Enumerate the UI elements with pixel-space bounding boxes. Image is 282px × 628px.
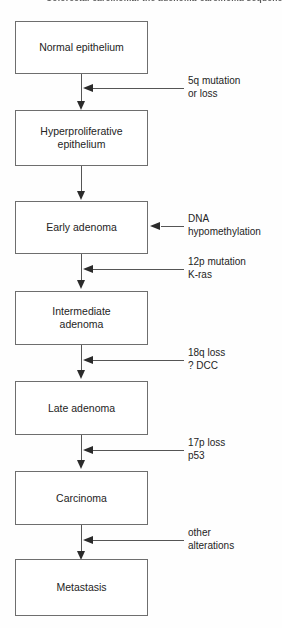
stage-box-hyperproliferative-epithelium: Hyperproliferative epithelium	[15, 110, 148, 166]
stage-line-1: Intermediate	[52, 305, 110, 317]
annotation-line-1: 18q loss	[188, 347, 225, 358]
stage-line-2: adenoma	[60, 318, 104, 330]
cropped-header-text: Colorectal carcinoma: the adenoma-carcin…	[0, 0, 282, 9]
connector-1	[81, 74, 82, 103]
annotation-18q-loss-dcc: 18q loss ? DCC	[188, 347, 225, 372]
annotation-line-5q	[86, 88, 184, 89]
stage-box-normal-epithelium: Normal epithelium	[15, 21, 148, 74]
stage-label-hyperproliferative-epithelium: Hyperproliferative epithelium	[36, 125, 126, 151]
stage-box-intermediate-adenoma: Intermediate adenoma	[15, 291, 148, 345]
annotation-line-1: other	[188, 527, 211, 538]
arrowhead-down-3	[77, 280, 85, 289]
annotation-line-2: hypomethylation	[188, 226, 261, 239]
arrowhead-left-other	[83, 536, 93, 544]
annotation-line-17p	[86, 450, 184, 451]
stage-label-early-adenoma: Early adenoma	[42, 221, 121, 234]
arrowhead-down-5	[77, 460, 85, 469]
connector-6	[81, 525, 82, 553]
annotation-line-2: alterations	[188, 540, 234, 553]
connector-5	[81, 435, 82, 462]
stage-box-carcinoma: Carcinoma	[15, 471, 148, 525]
stage-label-metastasis: Metastasis	[52, 581, 110, 594]
annotation-line-2: p53	[188, 450, 225, 463]
stage-line-1: Hyperproliferative	[40, 125, 122, 137]
annotation-line-2: ? DCC	[188, 360, 225, 373]
stage-line-2: epithelium	[58, 138, 106, 150]
arrowhead-left-17p	[83, 446, 93, 454]
connector-4	[81, 345, 82, 372]
annotation-line-18q	[86, 360, 184, 361]
annotation-line-1: 5q mutation	[188, 75, 240, 86]
annotation-line-1: 12p mutation	[188, 256, 246, 267]
annotation-line-2: K-ras	[188, 269, 246, 282]
cropped-header-label: Colorectal carcinoma: the adenoma-carcin…	[46, 0, 282, 3]
arrowhead-left-18q	[83, 356, 93, 364]
connector-3	[81, 254, 82, 282]
stage-label-carcinoma: Carcinoma	[52, 492, 111, 505]
arrowhead-down-2	[77, 191, 85, 200]
stage-line-1: Normal epithelium	[39, 41, 124, 53]
annotation-17p-loss-p53: 17p loss p53	[188, 437, 225, 462]
arrowhead-down-4	[77, 370, 85, 379]
annotation-5q-mutation: 5q mutation or loss	[188, 75, 240, 100]
stage-line-1: Metastasis	[56, 581, 106, 593]
arrowhead-down-1	[77, 101, 85, 110]
stage-label-normal-epithelium: Normal epithelium	[35, 41, 128, 54]
stage-label-late-adenoma: Late adenoma	[44, 402, 119, 415]
annotation-dna-hypomethylation: DNA hypomethylation	[188, 213, 261, 238]
arrowhead-left-12p	[83, 265, 93, 273]
annotation-other-alterations: other alterations	[188, 527, 234, 552]
stage-box-metastasis: Metastasis	[15, 559, 148, 616]
arrowhead-left-dna-hypomethylation	[150, 222, 160, 230]
stage-box-late-adenoma: Late adenoma	[15, 381, 148, 435]
stage-label-intermediate-adenoma: Intermediate adenoma	[48, 305, 114, 331]
annotation-12p-mutation-kras: 12p mutation K-ras	[188, 256, 246, 281]
stage-line-1: Late adenoma	[48, 402, 115, 414]
carcinogenesis-diagram: Colorectal carcinoma: the adenoma-carcin…	[0, 0, 282, 628]
annotation-line-dna-hypomethylation	[161, 226, 184, 227]
connector-2	[81, 166, 82, 193]
stage-line-1: Early adenoma	[46, 221, 117, 233]
annotation-line-2: or loss	[188, 88, 240, 101]
stage-box-early-adenoma: Early adenoma	[15, 201, 148, 254]
annotation-line-12p	[86, 269, 184, 270]
arrowhead-left-5q	[83, 84, 93, 92]
annotation-line-other	[86, 540, 184, 541]
stage-line-1: Carcinoma	[56, 492, 107, 504]
annotation-line-1: DNA	[188, 213, 209, 224]
annotation-line-1: 17p loss	[188, 437, 225, 448]
